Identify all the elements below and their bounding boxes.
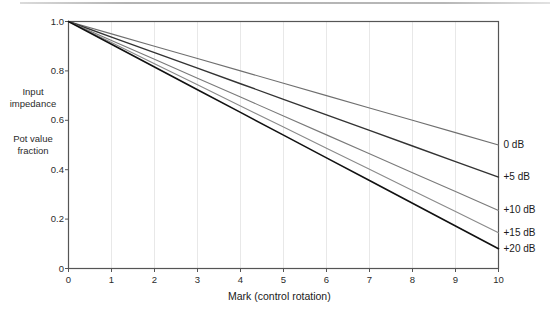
x-tick-label: 4 (227, 274, 255, 285)
y-tick-label: 0 (26, 263, 64, 274)
y-axis-title-line-4: fraction (2, 145, 64, 157)
y-axis-title-lower: Pot value fraction (2, 133, 64, 156)
y-tick-label: 0.4 (26, 164, 64, 175)
axis-ticks (65, 22, 499, 273)
y-tick-label: 0.6 (26, 114, 64, 125)
series-label-15db: +15 dB (504, 227, 536, 238)
gridlines-group (112, 22, 456, 269)
y-axis-title-line-3: Pot value (2, 133, 64, 145)
y-axis-title-line-2: impedance (2, 98, 64, 110)
x-tick-label: 5 (270, 274, 298, 285)
y-tick-label: 0.2 (26, 213, 64, 224)
x-tick-label: 6 (313, 274, 341, 285)
x-tick-label: 10 (485, 274, 513, 285)
x-tick-label: 3 (184, 274, 212, 285)
x-tick-label: 9 (442, 274, 470, 285)
chart-svg (0, 0, 557, 314)
x-tick-label: 1 (98, 274, 126, 285)
x-tick-label: 2 (141, 274, 169, 285)
chart-figure: 00.20.40.60.81.0 012345678910 Input impe… (0, 0, 557, 314)
series-label-10db: +10 dB (504, 204, 536, 215)
x-tick-label: 8 (399, 274, 427, 285)
y-tick-label: 1.0 (26, 16, 64, 27)
x-tick-label: 0 (55, 274, 83, 285)
y-tick-label: 0.8 (26, 65, 64, 76)
series-label-0db: 0 dB (504, 139, 525, 150)
x-tick-label: 7 (356, 274, 384, 285)
x-axis-title: Mark (control rotation) (228, 290, 331, 302)
y-axis-title-line-1: Input (2, 86, 64, 98)
series-label-20db: +20 dB (504, 243, 536, 254)
y-axis-title-upper: Input impedance (2, 86, 64, 109)
series-label-5db: +5 dB (504, 171, 530, 182)
